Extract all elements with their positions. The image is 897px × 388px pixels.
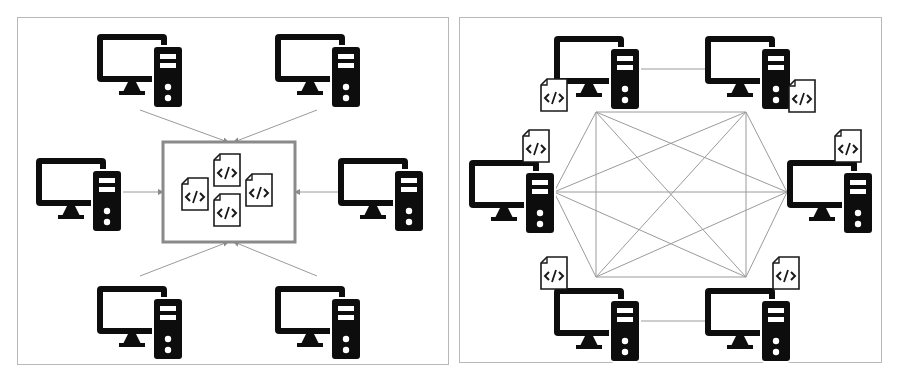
mesh-edge [554, 192, 746, 277]
computer-icon [275, 34, 361, 108]
arrow-edge [234, 242, 317, 276]
computer-icon [97, 286, 183, 360]
mesh-edge [746, 112, 787, 192]
computer-icon [338, 158, 424, 232]
computer-icon [469, 160, 555, 234]
computer-icon [554, 288, 640, 362]
code-file-icon [182, 178, 208, 210]
computer-icon [787, 160, 873, 234]
computer-icon [705, 36, 791, 110]
computer-icon [36, 158, 122, 232]
code-file-icon [523, 130, 549, 162]
code-file-icon [773, 257, 799, 289]
computer-icon [705, 288, 791, 362]
computer-icon [275, 286, 361, 360]
code-file-icon [789, 80, 815, 112]
mesh-edge [596, 112, 787, 192]
code-file-icon [835, 130, 861, 162]
mesh-edge [596, 192, 787, 277]
code-file-icon [246, 174, 272, 206]
arrow-edge [140, 242, 228, 276]
arrow-edge [140, 110, 228, 142]
mesh-edge [554, 112, 746, 192]
arrow-edge [234, 110, 317, 142]
code-file-icon [214, 194, 240, 226]
computer-icon [97, 34, 183, 108]
code-file-icon [541, 257, 567, 289]
code-file-icon [541, 79, 567, 111]
mesh-edge [554, 112, 596, 192]
diagram-canvas [0, 0, 897, 388]
code-file-icon [214, 154, 240, 186]
